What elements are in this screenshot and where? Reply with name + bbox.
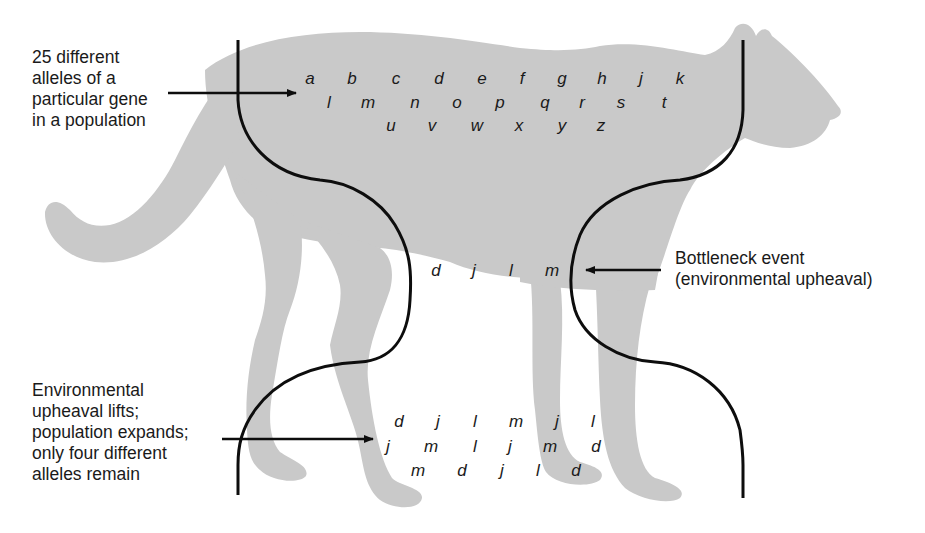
allele: m <box>361 94 375 112</box>
allele: p <box>495 94 504 112</box>
allele: j <box>508 438 512 456</box>
allele: l <box>591 413 595 431</box>
allele: c <box>392 70 401 88</box>
allele: l <box>473 438 477 456</box>
allele: s <box>617 94 626 112</box>
allele: d <box>571 462 580 480</box>
allele: r <box>579 94 585 112</box>
label-original-population: 25 different alleles of a particular gen… <box>32 47 148 131</box>
allele: m <box>543 438 557 456</box>
allele: d <box>457 462 466 480</box>
allele: z <box>597 117 606 135</box>
allele: j <box>436 413 440 431</box>
allele: o <box>452 94 461 112</box>
allele: l <box>473 413 477 431</box>
allele: m <box>411 462 425 480</box>
allele: d <box>434 70 443 88</box>
allele: j <box>555 413 559 431</box>
allele: m <box>545 262 559 280</box>
allele: l <box>327 94 331 112</box>
allele: x <box>515 117 524 135</box>
label-recovery: Environmental upheaval lifts; population… <box>32 380 189 485</box>
allele: j <box>639 70 643 88</box>
allele: h <box>597 70 606 88</box>
label-bottleneck-event: Bottleneck event (environmental upheaval… <box>675 248 872 290</box>
allele: b <box>347 70 356 88</box>
allele: v <box>428 117 437 135</box>
allele: j <box>472 262 476 280</box>
allele: m <box>509 413 523 431</box>
allele: g <box>557 70 566 88</box>
allele: e <box>477 70 486 88</box>
allele: l <box>536 462 540 480</box>
allele: j <box>386 438 390 456</box>
population-bottleneck-diagram: 25 different alleles of a particular gen… <box>0 0 925 533</box>
allele: m <box>424 438 438 456</box>
allele: d <box>591 438 600 456</box>
allele: d <box>394 413 403 431</box>
allele: u <box>386 117 395 135</box>
allele: j <box>500 462 504 480</box>
allele: n <box>410 94 419 112</box>
allele: w <box>471 117 483 135</box>
allele: k <box>676 70 685 88</box>
allele: l <box>509 262 513 280</box>
allele: y <box>558 117 567 135</box>
allele: t <box>662 94 667 112</box>
allele: a <box>305 70 314 88</box>
allele: q <box>540 94 549 112</box>
allele: f <box>520 70 525 88</box>
allele: d <box>431 262 440 280</box>
